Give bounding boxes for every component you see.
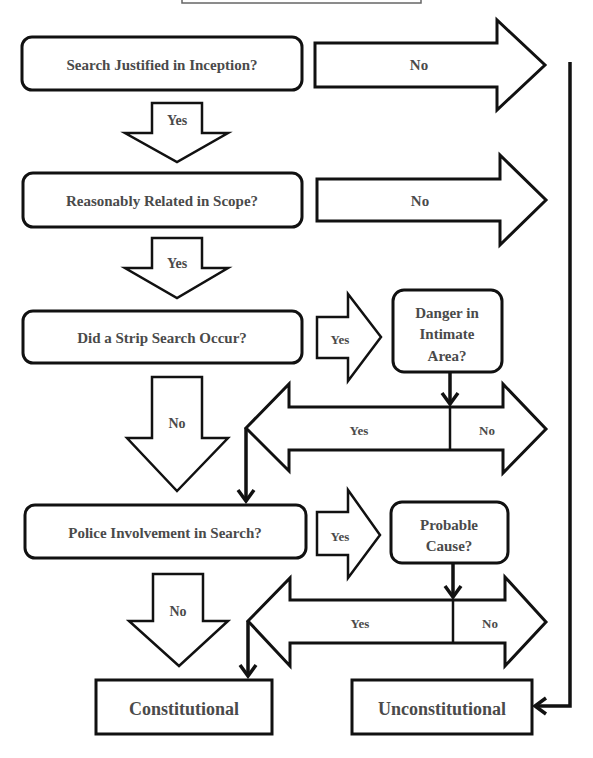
question-label-line: Intimate (420, 326, 475, 342)
arrow-label: Yes (351, 616, 370, 631)
flowchart: Search Justified in Inception? No Yes Re… (0, 0, 593, 758)
arrow-label: Yes (167, 256, 188, 271)
outcome-constitutional: Constitutional (96, 680, 272, 734)
outcome-label: Constitutional (129, 699, 239, 719)
question-label-line: Area? (428, 348, 467, 364)
outcome-label: Unconstitutional (378, 699, 506, 719)
arrow-q3-yes: Yes (317, 294, 381, 381)
question-box-search-justified: Search Justified in Inception? (22, 37, 302, 90)
arrow-label: No (168, 416, 185, 431)
question-label: Reasonably Related in Scope? (66, 193, 258, 209)
arrow-label: No (411, 193, 429, 209)
question-box-probable-cause: Probable Cause? (391, 502, 508, 563)
question-label: Search Justified in Inception? (67, 57, 258, 73)
arrow-label: Yes (350, 423, 369, 438)
arrow-label: No (169, 604, 186, 619)
arrow-label: Yes (331, 529, 350, 544)
outcome-unconstitutional: Unconstitutional (352, 680, 532, 734)
arrow-label: No (410, 57, 428, 73)
arrow-q3-no: No (127, 377, 228, 491)
question-box-police-involvement: Police Involvement in Search? (25, 505, 306, 558)
question-label-line: Cause? (426, 538, 473, 554)
arrow-q1-yes: Yes (125, 103, 228, 162)
question-label-line: Probable (420, 517, 478, 533)
arrow-q4-no: No (129, 574, 228, 666)
connector-to-unconstitutional (537, 62, 570, 706)
arrow-label: No (482, 616, 498, 631)
arrow-q2-no: No (317, 155, 546, 245)
question-label: Police Involvement in Search? (68, 525, 261, 541)
arrow-q4-yes: Yes (317, 490, 380, 578)
arrow-q2-yes: Yes (125, 238, 228, 298)
question-box-danger-intimate-area: Danger in Intimate Area? (393, 290, 502, 372)
double-arrow-probable: Yes No (248, 577, 546, 666)
question-label: Did a Strip Search Occur? (77, 330, 247, 346)
question-label-line: Danger in (415, 305, 479, 321)
arrow-label: Yes (331, 332, 350, 347)
arrow-q1-no: No (315, 20, 545, 110)
question-box-reasonably-related: Reasonably Related in Scope? (23, 173, 302, 227)
arrow-label: Yes (167, 113, 188, 128)
title-box (182, 0, 421, 3)
question-box-strip-search: Did a Strip Search Occur? (23, 311, 302, 363)
double-arrow-danger: Yes No (246, 384, 546, 473)
arrow-label: No (479, 423, 495, 438)
